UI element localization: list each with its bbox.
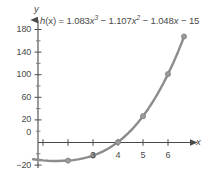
- y-tick-label-180: 180: [2, 24, 31, 34]
- data-point: [115, 140, 120, 145]
- y-tick-label-minus-20: −20: [2, 160, 31, 170]
- y-tick-label-20: 20: [2, 114, 31, 124]
- equation-segment-1: (x) = 1.083: [45, 15, 90, 26]
- equation-segment-4: − 15: [178, 15, 199, 26]
- data-point: [140, 114, 145, 119]
- y-tick-label-60: 60: [2, 92, 31, 102]
- y-tick-label-0: 0: [2, 127, 31, 137]
- y-tick-label-140: 140: [2, 47, 31, 57]
- data-point: [181, 34, 186, 39]
- data-point: [65, 158, 70, 163]
- x-axis-title: x: [196, 136, 201, 147]
- x-tick-label-3: 3: [83, 150, 103, 160]
- equation-annotation: h(x) = 1.083x3 − 1.107x2 − 1.048x − 15: [40, 15, 199, 26]
- equation-segment-2: − 1.107: [98, 15, 132, 26]
- y-tick-label-100: 100: [2, 69, 31, 79]
- cubic-function-graph-figure: h(x) = 1.083x3 − 1.107x2 − 1.048x − 15 1…: [0, 0, 212, 180]
- data-point: [165, 72, 170, 77]
- plot-canvas: [0, 0, 212, 180]
- y-axis-title: y: [34, 3, 39, 14]
- x-tick-label-4: 4: [108, 150, 128, 160]
- x-tick-label-5: 5: [133, 150, 153, 160]
- equation-segment-3: − 1.048: [140, 15, 174, 26]
- x-tick-label-6: 6: [158, 150, 178, 160]
